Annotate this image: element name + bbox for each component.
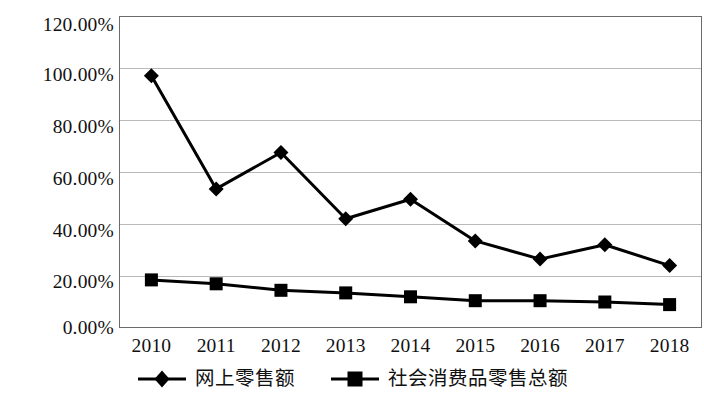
x-axis-tick-label: 2018 [637, 333, 702, 361]
legend-item-online-retail[interactable]: 网上零售额 [136, 368, 295, 390]
y-axis-tick-label: 20.00% [2, 272, 114, 292]
plot-area [119, 16, 702, 328]
plot-svg [119, 16, 702, 328]
y-axis-tick-label: 40.00% [2, 221, 114, 241]
square-marker-icon [598, 296, 611, 309]
x-axis-tick-labels: 2010 2011 2012 2013 2014 2015 2016 2017 … [119, 333, 702, 361]
square-marker-icon [404, 290, 417, 303]
y-axis-tick-label: 0.00% [2, 318, 114, 338]
y-axis-tick-label: 60.00% [2, 169, 114, 189]
square-marker-icon [469, 294, 482, 307]
chart-legend: 网上零售额 社会消费品零售总额 [0, 362, 704, 395]
square-marker-icon [534, 294, 547, 307]
square-marker-icon [663, 298, 676, 311]
square-marker-icon [145, 273, 158, 286]
square-marker-icon [210, 277, 223, 290]
x-axis-tick-label: 2015 [443, 333, 508, 361]
y-axis-tick-label: 80.00% [2, 117, 114, 137]
x-axis-tick-label: 2013 [313, 333, 378, 361]
x-axis-tick-label: 2014 [378, 333, 443, 361]
square-marker-icon [274, 284, 287, 297]
legend-item-total-retail[interactable]: 社会消费品零售总额 [329, 368, 568, 390]
diamond-marker-icon [136, 368, 188, 390]
legend-label: 社会消费品零售总额 [388, 368, 568, 390]
x-axis-tick-label: 2010 [119, 333, 184, 361]
legend-label: 网上零售额 [195, 368, 295, 390]
line-chart: 120.00% 100.00% 80.00% 60.00% 40.00% 20.… [0, 0, 704, 395]
x-axis-tick-label: 2011 [184, 333, 249, 361]
y-axis-tick-label: 120.00% [2, 15, 114, 35]
y-axis-tick-labels: 120.00% 100.00% 80.00% 60.00% 40.00% 20.… [0, 0, 114, 340]
square-marker-icon [339, 286, 352, 299]
square-marker-icon [329, 368, 381, 390]
x-axis-tick-label: 2017 [572, 333, 637, 361]
x-axis-tick-label: 2012 [249, 333, 314, 361]
x-axis-tick-label: 2016 [508, 333, 573, 361]
y-axis-tick-label: 100.00% [2, 65, 114, 85]
